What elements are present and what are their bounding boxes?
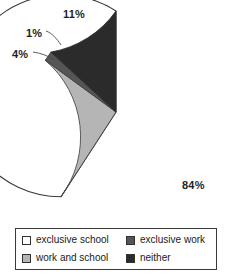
slice-label-neither: 11% bbox=[63, 9, 85, 20]
legend-label-exclusive-work: exclusive work bbox=[140, 235, 205, 245]
legend-item-neither[interactable]: neither bbox=[126, 253, 224, 263]
pie-chart-figure: 11% 1% 4% 84% exclusive school exclusive… bbox=[0, 0, 233, 280]
legend-item-exclusive-work[interactable]: exclusive work bbox=[126, 235, 224, 245]
legend-swatch-exclusive-school bbox=[22, 236, 31, 245]
slice-label-work-and-school: 4% bbox=[12, 49, 28, 60]
legend-label-work-and-school: work and school bbox=[36, 253, 108, 263]
legend-label-exclusive-school: exclusive school bbox=[36, 235, 109, 245]
legend-swatch-work-and-school bbox=[22, 254, 31, 263]
legend-item-exclusive-school[interactable]: exclusive school bbox=[22, 235, 126, 245]
legend-item-work-and-school[interactable]: work and school bbox=[22, 253, 126, 263]
legend-swatch-neither bbox=[126, 254, 135, 263]
slice-label-exclusive-school: 84% bbox=[182, 180, 205, 191]
pie-plot-area: 11% 1% 4% 84% bbox=[0, 0, 233, 218]
chart-legend: exclusive school exclusive work work and… bbox=[15, 228, 217, 270]
legend-swatch-exclusive-work bbox=[126, 236, 135, 245]
legend-label-neither: neither bbox=[140, 253, 171, 263]
slice-label-exclusive-work: 1% bbox=[26, 28, 42, 39]
